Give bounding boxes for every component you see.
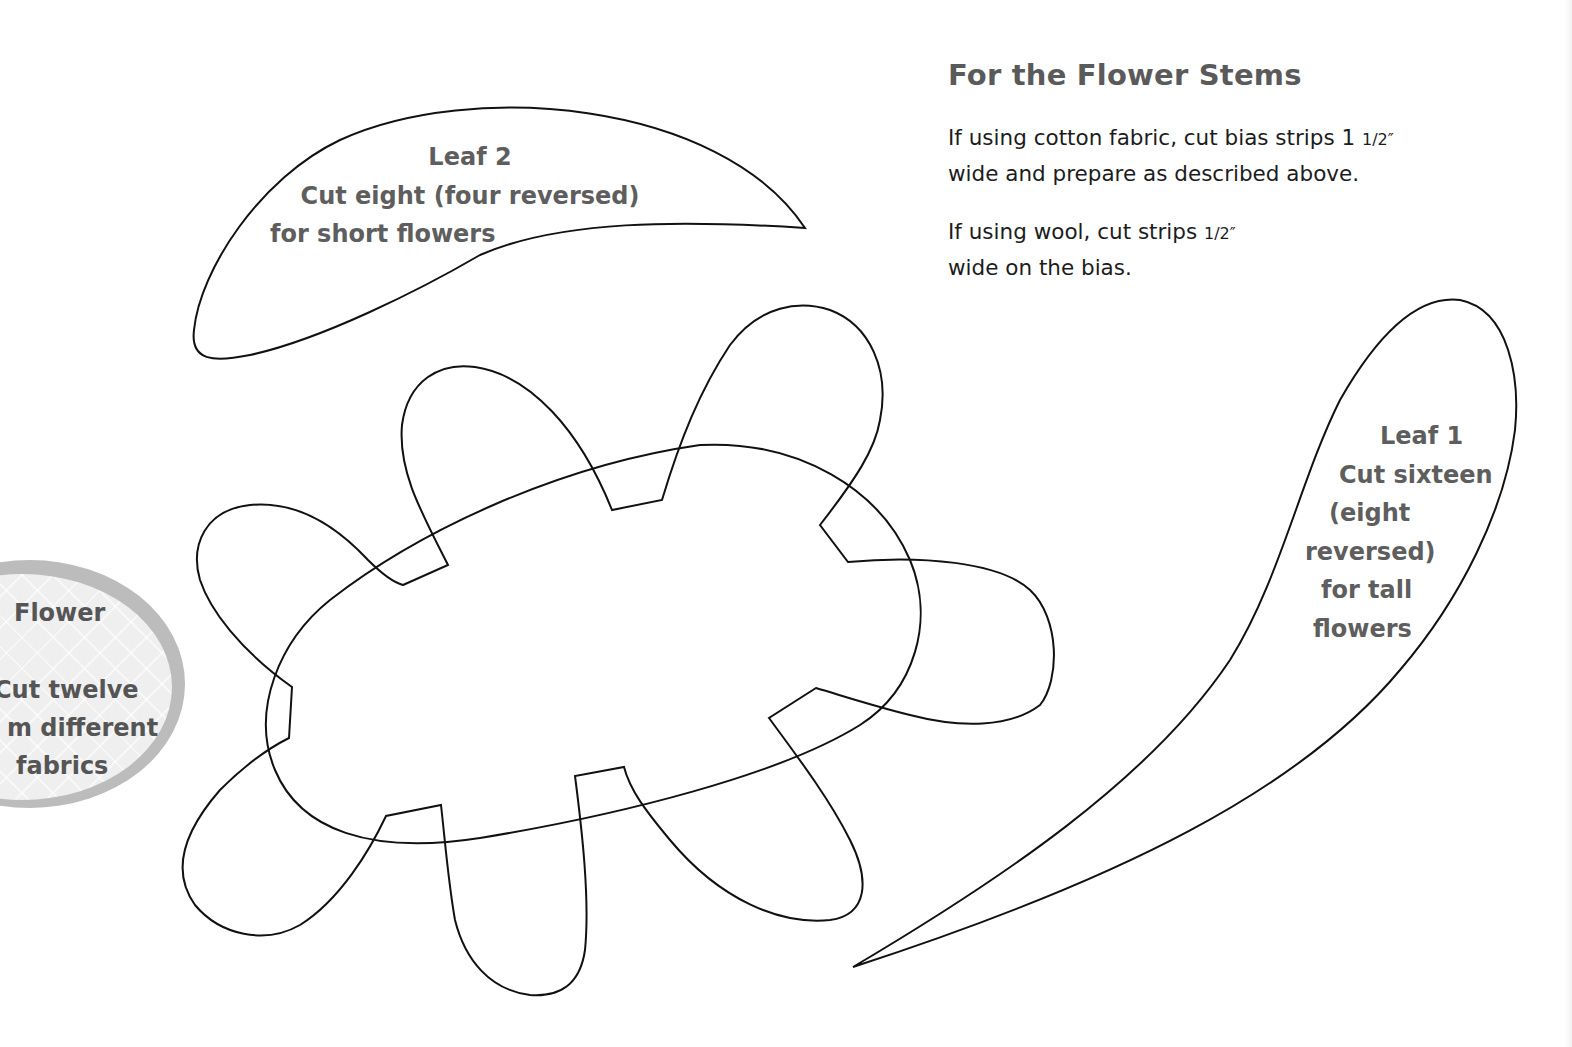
flower-center-outline	[266, 445, 921, 844]
leaf2-instruction-line1: Cut eight (four reversed)	[240, 177, 700, 216]
leaf1-instruction-line4: for tall	[1296, 571, 1506, 610]
leaf1-instruction-line2: (eight	[1296, 494, 1506, 533]
flower-template-instruction-line3: fabrics	[16, 747, 108, 786]
leaf1-template-name: Leaf 1	[1296, 417, 1506, 456]
leaf1-instruction-line3: reversed)	[1296, 533, 1506, 572]
page-edge-shadow	[1564, 0, 1572, 1047]
section-heading: For the Flower Stems	[948, 58, 1302, 92]
flower-template-instruction-line1: Cut twelve	[0, 671, 139, 710]
cotton-strip-width: 1/2″	[1362, 130, 1394, 149]
cotton-instruction-line1: If using cotton fabric, cut bias strips …	[948, 125, 1362, 150]
flower-template-petals	[183, 306, 1054, 996]
wool-instruction-line1: If using wool, cut strips	[948, 219, 1204, 244]
wool-instruction: If using wool, cut strips 1/2″ wide on t…	[948, 215, 1236, 285]
cotton-instruction-line2: wide and prepare as described above.	[948, 161, 1359, 186]
leaf2-template-name: Leaf 2	[240, 138, 700, 177]
leaf1-instruction-line1: Cut sixteen	[1296, 456, 1506, 495]
flower-template-instruction-line2: m different	[7, 709, 158, 748]
leaf1-label: Leaf 1 Cut sixteen (eight reversed) for …	[1296, 417, 1506, 648]
leaf1-instruction-line5: flowers	[1296, 610, 1506, 649]
leaf2-instruction-line2: for short flowers	[240, 215, 700, 254]
wool-instruction-line2: wide on the bias.	[948, 255, 1132, 280]
wool-strip-width: 1/2″	[1204, 224, 1236, 243]
leaf2-label: Leaf 2 Cut eight (four reversed) for sho…	[240, 138, 700, 254]
cotton-instruction: If using cotton fabric, cut bias strips …	[948, 121, 1394, 191]
flower-template-name: Flower	[14, 594, 105, 633]
